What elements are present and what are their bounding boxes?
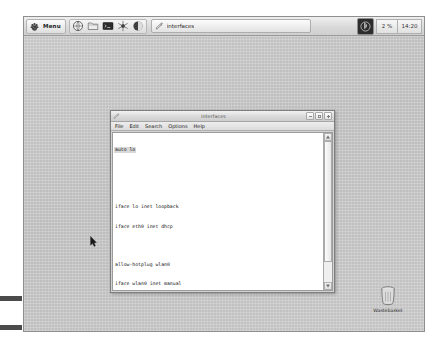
menu-help[interactable]: Help (194, 124, 205, 129)
left-edge-bar-bottom (0, 325, 22, 330)
system-tray: 2 % 14:20 (357, 19, 422, 34)
vertical-scrollbar[interactable] (323, 133, 332, 290)
editor-line: iface eth0 inet dhcp (115, 224, 321, 230)
editor-text-area[interactable]: auto lo iface lo inet loopback iface eth… (113, 133, 323, 290)
menu-options[interactable]: Options (168, 124, 187, 129)
mouse-cursor (90, 236, 97, 247)
editor-line (115, 166, 321, 172)
scrollbar-thumb[interactable] (324, 141, 332, 262)
scroll-up-arrow-icon[interactable] (324, 133, 332, 141)
taskbar: Menu (24, 17, 424, 36)
scroll-down-arrow-icon[interactable] (324, 282, 332, 290)
window-title: interfaces (122, 113, 305, 119)
desktop-icon-wastebasket[interactable]: Wastebasket (366, 285, 410, 313)
wolfram-icon[interactable] (132, 20, 144, 32)
text-editor-icon (155, 22, 164, 31)
wastebasket-icon (379, 285, 397, 307)
cpu-usage-indicator[interactable]: 2 % (376, 19, 398, 34)
editor-line: auto lo (115, 147, 321, 153)
raspberry-icon (29, 21, 40, 32)
editor-line: iface lo inet loopback (115, 204, 321, 210)
menu-search[interactable]: Search (145, 124, 162, 129)
menubar: File Edit Search Options Help (111, 122, 334, 131)
window-list: interfaces (151, 19, 353, 34)
clock[interactable]: 14:20 (398, 19, 422, 34)
terminal-icon[interactable] (102, 20, 114, 32)
page-root: Menu (0, 0, 446, 348)
menu-file[interactable]: File (115, 124, 123, 129)
launcher-bar (69, 19, 147, 34)
bluetooth-icon (360, 21, 371, 32)
text-editor-window[interactable]: interfaces File Edit Search Options Help… (110, 110, 335, 293)
menu-edit[interactable]: Edit (129, 124, 139, 129)
desktop-area[interactable]: Wastebasket interfaces File Edit (24, 36, 424, 331)
editor-line-text: auto lo (114, 147, 136, 153)
editor-line: iface wlan0 inet manual (115, 281, 321, 287)
left-edge-bar-top (0, 296, 22, 301)
mathematica-icon[interactable] (117, 20, 129, 32)
bluetooth-tray-button[interactable] (357, 18, 374, 35)
editor-line (115, 243, 321, 249)
editor-line (115, 185, 321, 191)
menu-button-label: Menu (43, 23, 61, 29)
web-browser-icon[interactable] (72, 20, 84, 32)
menu-button[interactable]: Menu (26, 19, 66, 34)
taskbar-window-title: interfaces (167, 23, 194, 29)
text-editor-icon (113, 113, 120, 120)
editor-line: allow-hotplug wlan0 (115, 262, 321, 268)
window-titlebar[interactable]: interfaces (111, 111, 334, 122)
desktop-icon-label: Wastebasket (373, 308, 402, 313)
close-button[interactable] (324, 112, 332, 120)
scrollbar-track[interactable] (324, 141, 332, 282)
minimize-button[interactable] (306, 112, 314, 120)
file-manager-icon[interactable] (87, 20, 99, 32)
maximize-button[interactable] (315, 112, 323, 120)
desktop-screen: Menu (23, 16, 425, 332)
editor-body: auto lo iface lo inet loopback iface eth… (112, 132, 333, 291)
taskbar-window-button[interactable]: interfaces (151, 19, 311, 33)
